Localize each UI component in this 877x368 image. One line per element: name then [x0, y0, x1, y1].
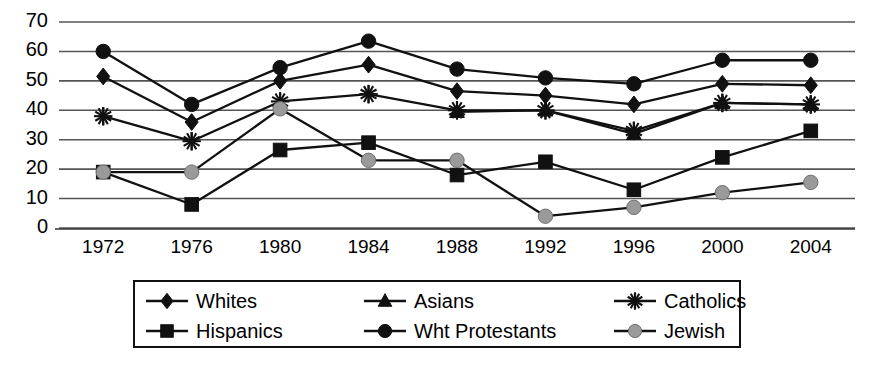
data-point-marker	[804, 124, 818, 138]
y-axis-tick-label: 50	[0, 68, 48, 91]
data-point-marker	[716, 151, 730, 165]
series-line-segment	[545, 96, 633, 105]
data-point-marker	[362, 136, 376, 150]
data-point-marker	[378, 324, 391, 337]
data-point-marker	[361, 153, 375, 167]
data-point-marker	[161, 293, 173, 308]
data-point-marker	[450, 62, 464, 76]
legend-item-jewish[interactable]: Jewish	[613, 320, 746, 343]
series-line-segment	[722, 182, 810, 192]
data-point-marker	[362, 56, 375, 73]
x-axis-tick-label: 2000	[677, 236, 767, 258]
series-line-segment	[457, 69, 545, 78]
data-point-marker	[538, 71, 552, 85]
series-line-segment	[369, 143, 457, 175]
series-line-segment	[634, 193, 722, 208]
x-axis-tick-label: 1988	[412, 236, 502, 258]
series-line-segment	[103, 76, 191, 122]
data-point-marker	[804, 175, 818, 189]
series-line-segment	[103, 116, 191, 141]
data-point-marker	[627, 183, 641, 197]
legend-label: Jewish	[664, 320, 725, 343]
legend-item-catholics[interactable]: Catholics	[613, 290, 746, 313]
data-point-marker	[96, 44, 110, 58]
series-line-segment	[545, 110, 633, 131]
chart-legend: WhitesAsiansCatholicsHispanicsWht Protes…	[133, 280, 741, 348]
y-axis-tick-label: 40	[0, 97, 48, 120]
data-point-marker	[273, 102, 287, 116]
series-line-segment	[369, 41, 457, 69]
legend-label: Asians	[414, 290, 474, 313]
y-axis-tick-label: 30	[0, 127, 48, 150]
x-axis-tick-label: 1996	[589, 236, 679, 258]
data-point-marker	[715, 53, 729, 67]
data-point-marker	[450, 153, 464, 167]
legend-item-wht-protestants[interactable]: Wht Protestants	[363, 320, 613, 343]
data-point-marker	[185, 198, 199, 212]
y-axis-tick-label: 10	[0, 186, 48, 209]
circle-marker-icon	[363, 320, 407, 342]
triangle-marker-icon	[363, 290, 407, 312]
x-axis-tick-label: 1976	[147, 236, 237, 258]
data-point-marker	[359, 85, 377, 103]
data-point-marker	[161, 325, 174, 338]
series-line-segment	[722, 131, 810, 157]
data-point-marker	[185, 114, 198, 131]
asterisk-marker-icon	[613, 290, 657, 312]
plot-area	[0, 0, 877, 272]
line-chart-svg	[0, 0, 877, 272]
data-point-marker	[450, 83, 463, 100]
data-point-marker	[715, 185, 729, 199]
series-line-segment	[545, 162, 633, 190]
data-point-marker	[184, 165, 198, 179]
legend-label: Catholics	[664, 290, 746, 313]
data-point-marker	[450, 168, 464, 182]
legend-item-asians[interactable]: Asians	[363, 290, 613, 313]
data-point-marker	[628, 324, 641, 337]
series-line-segment	[369, 94, 457, 110]
data-point-marker	[627, 200, 641, 214]
data-point-marker	[182, 132, 200, 150]
data-point-marker	[97, 68, 110, 85]
series-line-segment	[280, 41, 368, 67]
series-line-segment	[545, 207, 633, 216]
series-line-segment	[103, 51, 191, 104]
legend-label: Hispanics	[196, 320, 283, 343]
data-point-marker	[804, 77, 817, 94]
legend-label: Whites	[196, 290, 257, 313]
y-axis-tick-label: 60	[0, 38, 48, 61]
x-axis-tick-label: 1992	[500, 236, 590, 258]
series-line-segment	[280, 94, 368, 101]
series-line-segment	[634, 157, 722, 189]
circle-gray-marker-icon	[613, 320, 657, 342]
x-axis-tick-label: 2004	[766, 236, 856, 258]
data-point-marker	[273, 143, 287, 157]
data-point-marker	[716, 75, 729, 92]
series-line-segment	[722, 103, 810, 104]
x-axis-tick-label: 1972	[58, 236, 148, 258]
x-axis-tick-label: 1980	[235, 236, 325, 258]
series-line-segment	[192, 150, 280, 204]
data-point-marker	[804, 53, 818, 67]
series-line-segment	[369, 65, 457, 91]
data-point-marker	[538, 209, 552, 223]
data-point-marker	[184, 97, 198, 111]
data-point-marker	[627, 293, 644, 310]
y-axis-tick-label: 20	[0, 156, 48, 179]
series-line-segment	[634, 84, 722, 105]
data-point-marker	[536, 101, 554, 119]
legend-item-hispanics[interactable]: Hispanics	[145, 320, 363, 343]
data-point-marker	[361, 34, 375, 48]
series-line-segment	[280, 65, 368, 81]
legend-label: Wht Protestants	[414, 320, 556, 343]
y-axis-tick-label: 0	[0, 215, 48, 238]
series-line-segment	[280, 109, 368, 161]
diamond-marker-icon	[145, 290, 189, 312]
series-line-segment	[722, 84, 810, 85]
series-line-segment	[634, 103, 722, 131]
series-line-segment	[103, 172, 191, 204]
series-line-segment	[192, 101, 280, 141]
legend-item-whites[interactable]: Whites	[145, 290, 363, 313]
series-line-segment	[280, 143, 368, 150]
data-point-marker	[96, 165, 110, 179]
